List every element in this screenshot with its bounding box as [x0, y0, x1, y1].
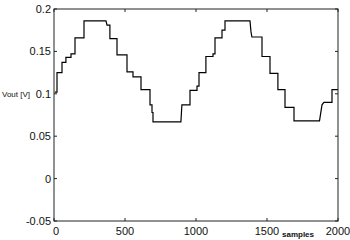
line-chart: -0.0500.050.10.150.2 0500100015002000 Vo…	[0, 0, 350, 240]
x-tick-label: 1500	[255, 225, 279, 237]
x-axis-label: samples	[282, 230, 315, 239]
y-tick-label: -0.05	[26, 215, 51, 227]
y-axis-label: Vout [V]	[2, 90, 30, 99]
x-tick-label: 500	[116, 225, 134, 237]
plot-area	[54, 9, 338, 221]
y-tick-label: 0.05	[30, 130, 51, 142]
x-tick-label: 2000	[326, 225, 350, 237]
y-tick-label: 0.2	[36, 3, 51, 15]
y-tick-label: 0	[45, 173, 51, 185]
y-tick-label: 0.1	[36, 88, 51, 100]
x-tick-label: 1000	[184, 225, 208, 237]
y-tick-label: 0.15	[30, 45, 51, 57]
x-tick-label: 0	[53, 225, 59, 237]
